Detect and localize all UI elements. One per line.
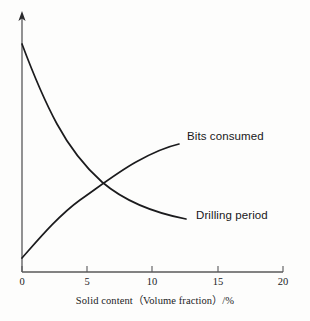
x-tick-label-10: 10 bbox=[139, 276, 165, 287]
chart-plot-area bbox=[0, 0, 310, 321]
x-tick-label-15: 15 bbox=[205, 276, 231, 287]
x-tick-label-0: 0 bbox=[9, 276, 35, 287]
chart-figure: Bits consumed Drilling period 0 5 10 15 … bbox=[0, 0, 310, 321]
curve-drilling-period bbox=[22, 44, 186, 219]
x-axis-caption: Solid content（Volume fraction）/% bbox=[0, 292, 310, 307]
series-label-drilling-period: Drilling period bbox=[196, 209, 268, 221]
curve-bits-consumed bbox=[22, 144, 179, 258]
x-tick-label-5: 5 bbox=[74, 276, 100, 287]
series-label-bits-consumed: Bits consumed bbox=[187, 130, 264, 142]
x-tick-label-20: 20 bbox=[270, 276, 296, 287]
